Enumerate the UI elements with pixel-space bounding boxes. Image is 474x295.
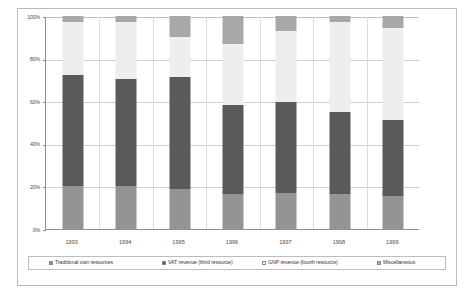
- bar-segment[interactable]: [329, 16, 350, 22]
- bar-segment[interactable]: [383, 16, 404, 28]
- legend-swatch-icon: [49, 261, 53, 265]
- chart-legend: Traditional own resourcesVAT revenue (th…: [28, 256, 446, 270]
- legend-item[interactable]: VAT revenue (third resource): [162, 260, 233, 265]
- bar-series-group: [46, 17, 419, 229]
- bar-segment[interactable]: [383, 28, 404, 121]
- stacked-bar[interactable]: [276, 17, 297, 229]
- bar-segment[interactable]: [329, 194, 350, 229]
- bar-slot: [260, 17, 313, 229]
- legend-label: Miscellaneous: [383, 260, 415, 265]
- bar-segment[interactable]: [116, 186, 137, 229]
- bar-segment[interactable]: [116, 16, 137, 22]
- x-tick-label: 1998: [312, 240, 365, 246]
- bar-segment[interactable]: [383, 120, 404, 196]
- legend-swatch-icon: [377, 261, 381, 265]
- bar-segment[interactable]: [222, 105, 243, 193]
- bar-segment[interactable]: [169, 77, 190, 189]
- plot-area: [45, 17, 419, 230]
- chart-screenshot: 0%20%40%60%80%100% 199319941995199619971…: [0, 0, 474, 295]
- bar-slot: [46, 17, 99, 229]
- legend-swatch-icon: [262, 261, 266, 265]
- x-tick-label: 1999: [366, 240, 419, 246]
- bar-slot: [367, 17, 420, 229]
- legend-label: Traditional own resources: [55, 260, 113, 265]
- bar-slot: [313, 17, 366, 229]
- y-tick-label: 100%: [27, 15, 40, 20]
- bar-segment[interactable]: [276, 102, 297, 193]
- y-axis: 0%20%40%60%80%100%: [17, 13, 43, 231]
- stacked-bar[interactable]: [116, 17, 137, 229]
- bar-segment[interactable]: [222, 194, 243, 229]
- legend-label: GNP revenue (fourth resource): [268, 260, 338, 265]
- bar-segment[interactable]: [169, 37, 190, 76]
- bar-segment[interactable]: [276, 31, 297, 102]
- bar-slot: [206, 17, 259, 229]
- stacked-bar[interactable]: [383, 17, 404, 229]
- x-axis: 1993199419951996199719981999: [45, 240, 419, 252]
- bar-segment[interactable]: [329, 22, 350, 111]
- bar-segment[interactable]: [62, 186, 83, 229]
- stacked-bar[interactable]: [169, 17, 190, 229]
- x-tick-label: 1996: [205, 240, 258, 246]
- bar-segment[interactable]: [62, 75, 83, 187]
- bar-segment[interactable]: [383, 196, 404, 229]
- plot-wrapper: 0%20%40%60%80%100%: [17, 13, 421, 238]
- y-tick-label: 40%: [30, 142, 40, 147]
- bar-segment[interactable]: [222, 16, 243, 44]
- y-tick-label: 80%: [30, 57, 40, 62]
- bar-slot: [99, 17, 152, 229]
- bar-segment[interactable]: [169, 16, 190, 37]
- x-tick-label: 1995: [152, 240, 205, 246]
- bar-segment[interactable]: [62, 22, 83, 74]
- bar-segment[interactable]: [169, 189, 190, 229]
- bar-segment[interactable]: [62, 16, 83, 22]
- legend-item[interactable]: Traditional own resources: [49, 260, 113, 265]
- legend-item[interactable]: GNP revenue (fourth resource): [262, 260, 338, 265]
- bar-segment[interactable]: [116, 79, 137, 187]
- stacked-bar[interactable]: [62, 17, 83, 229]
- bar-segment[interactable]: [222, 44, 243, 106]
- stacked-bar[interactable]: [329, 17, 350, 229]
- bar-segment[interactable]: [329, 112, 350, 194]
- y-tick-label: 20%: [30, 185, 40, 190]
- y-tick-mark: [43, 230, 46, 231]
- legend-swatch-icon: [162, 261, 166, 265]
- y-tick-label: 0%: [33, 228, 40, 233]
- bar-segment[interactable]: [276, 16, 297, 31]
- x-tick-label: 1994: [98, 240, 151, 246]
- legend-item[interactable]: Miscellaneous: [377, 260, 415, 265]
- y-tick-label: 60%: [30, 100, 40, 105]
- bar-segment[interactable]: [116, 22, 137, 78]
- legend-label: VAT revenue (third resource): [168, 260, 233, 265]
- bar-slot: [153, 17, 206, 229]
- x-tick-label: 1993: [45, 240, 98, 246]
- stacked-bar[interactable]: [222, 17, 243, 229]
- x-tick-label: 1997: [259, 240, 312, 246]
- bar-segment[interactable]: [276, 193, 297, 229]
